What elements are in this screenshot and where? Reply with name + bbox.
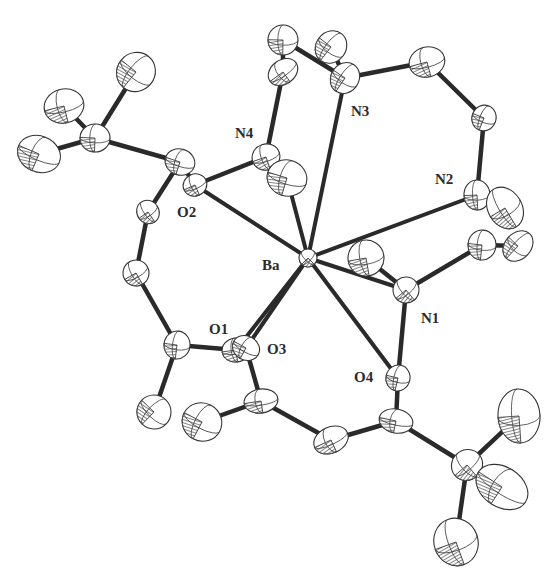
coordination-bond-ba-n3 [308, 78, 345, 258]
atom-c20 [268, 25, 299, 56]
atom-c4 [109, 44, 164, 99]
label-n3: N3 [351, 104, 369, 119]
covalent-bonds [39, 40, 519, 542]
label-ba: Ba [262, 258, 280, 273]
coordination-bond-ba-o4 [308, 258, 398, 378]
atom-c15 [496, 388, 542, 445]
label-n4: N4 [235, 126, 253, 141]
atom-c6 [12, 129, 67, 179]
atom-c8 [162, 330, 191, 361]
atom-c9 [130, 388, 178, 436]
coordination-bonds [195, 78, 477, 378]
atom-c7 [118, 255, 154, 291]
coordination-bond-ba-n2 [308, 195, 477, 258]
atom-c10 [242, 386, 279, 415]
atom-c11 [175, 396, 228, 448]
atom-c2 [132, 196, 164, 228]
atom-c26 [497, 225, 539, 268]
ortep-structure-diagram [0, 0, 558, 575]
label-o2: O2 [177, 205, 196, 220]
atom-c12 [309, 421, 353, 460]
label-n2: N2 [435, 172, 453, 187]
label-o3: O3 [267, 342, 286, 357]
atom-c3 [80, 123, 111, 152]
atom-c25 [467, 229, 498, 262]
label-o1: O1 [209, 322, 228, 337]
label-n1: N1 [421, 311, 439, 326]
atom-c19 [263, 53, 303, 91]
atom-c17 [427, 512, 485, 572]
label-o4: O4 [354, 370, 373, 385]
